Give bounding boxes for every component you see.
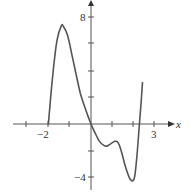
function-graph: −2 3 x 8 −4 bbox=[0, 0, 193, 192]
y-tick-label-8: 8 bbox=[80, 11, 86, 23]
y-tick-label-neg4: −4 bbox=[74, 171, 86, 183]
x-axis-label: x bbox=[175, 118, 181, 130]
x-tick-label-neg2: −2 bbox=[37, 128, 49, 140]
y-axis-arrow-icon bbox=[88, 0, 94, 6]
function-curve bbox=[48, 25, 142, 181]
x-tick-label-3: 3 bbox=[151, 128, 157, 140]
x-axis-arrow-icon bbox=[168, 121, 175, 127]
